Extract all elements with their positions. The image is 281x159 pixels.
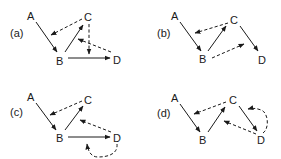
edge-a-to-b [36,22,57,52]
edge-b-to-c [65,106,83,130]
node-a: A [27,10,35,22]
node-c: C [230,14,238,26]
panel-d: (d) A B C D [157,92,267,146]
edge-a-to-b [180,22,201,51]
node-a: A [171,10,179,22]
node-d: D [113,54,121,66]
node-a: A [27,91,35,103]
node-c: C [229,94,237,106]
panel-b: (b) A B C D [157,10,266,66]
edge-c-to-b-dashed [195,23,228,33]
node-a: A [171,92,179,104]
edge-c-to-d [240,26,258,51]
node-c: C [84,94,92,106]
panel-a: (a) A B C D [10,10,121,67]
edge-c-to-d [239,106,257,131]
panel-label-c: (c) [10,106,23,118]
panel-label-b: (b) [157,27,170,39]
panel-label-a: (a) [10,27,23,39]
directed-graph-figure: (a) A B C D (b) A B C D (c) A B C D [0,0,281,159]
node-b: B [56,132,63,144]
node-d: D [257,134,265,146]
edge-d-to-c-dashed [80,120,111,132]
node-d: D [258,54,266,66]
panel-label-d: (d) [157,107,170,119]
edge-b-to-c [65,25,83,52]
edge-d-to-c-dashed [78,39,111,52]
node-b: B [199,53,206,65]
edge-a-to-b [180,104,200,132]
node-d: D [113,132,121,144]
edge-d-to-c-loop-dashed [248,108,267,133]
node-b: B [199,134,206,146]
node-c: C [84,11,92,23]
edge-b-to-d-dashed [212,44,244,58]
edge-d-self-loop-dashed [87,144,117,157]
edge-b-to-c [208,107,225,132]
edge-b-to-c [208,26,226,51]
panel-c: (c) A B C D [10,91,121,157]
node-b: B [56,55,63,67]
edge-a-to-b [36,103,56,130]
